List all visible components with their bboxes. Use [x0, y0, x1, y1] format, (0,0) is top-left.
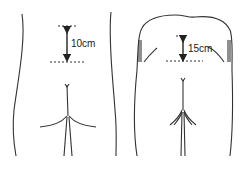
- left-body-outline-left: [13, 14, 23, 156]
- left-measurement-label: 10cm: [71, 38, 95, 49]
- left-figure: [13, 12, 116, 156]
- left-spine-line: [67, 85, 68, 116]
- right-figure: [134, 15, 232, 156]
- right-measurement-label: 15cm: [188, 43, 212, 54]
- left-gluteal-curve-right: [69, 116, 96, 127]
- diagram: 10cm: [0, 0, 246, 169]
- diagram-canvas: 10cm: [0, 0, 246, 169]
- left-gluteal-curve-left: [40, 116, 67, 127]
- left-body-outline-right: [110, 12, 116, 156]
